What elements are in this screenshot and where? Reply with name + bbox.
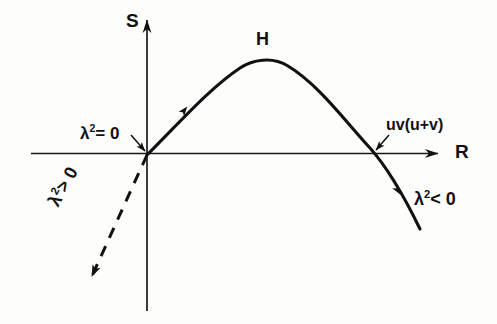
lambda-squared-negative-label: λ2< 0 <box>414 189 456 208</box>
x-intercept-label: uv(u+v) <box>386 117 443 133</box>
lambda-glyph: λ <box>414 189 424 209</box>
leader-uv <box>376 135 389 150</box>
peak-label-h: H <box>256 30 269 48</box>
flow-arrow-falling-marker <box>386 172 400 194</box>
leader-lambda-zero <box>131 135 145 151</box>
relation-glyph: < 0 <box>430 189 456 209</box>
relation-glyph: = 0 <box>95 124 119 143</box>
flow-arrow-falling <box>386 172 400 194</box>
figure-canvas: S R H λ2= 0 uv(u+v) λ2< 0 λ2> 0 <box>0 0 497 324</box>
r-axis-label: R <box>455 142 469 161</box>
solid-curve-path <box>147 60 420 229</box>
dashed-branch-path <box>92 155 147 276</box>
leader-uv-line <box>376 135 389 150</box>
dashed-branch <box>92 155 147 276</box>
solid-curve <box>147 60 420 229</box>
s-axis-label: S <box>126 11 139 30</box>
lambda-squared-zero-label: λ2= 0 <box>80 123 119 142</box>
leader-lambda-zero-line <box>131 135 145 151</box>
figure-vector-layer <box>0 0 497 324</box>
